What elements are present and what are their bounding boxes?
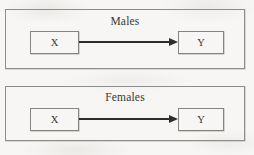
panel-females-title: Females [6, 92, 244, 104]
path-diagram-figure: Males X Y Females X Y [0, 0, 254, 155]
arrow-head-icon [169, 38, 178, 46]
panel-females-node-x: X [30, 108, 79, 131]
panel-males-arrow-x-to-y [79, 41, 178, 43]
panel-females-arrow-x-to-y [79, 118, 178, 120]
panel-females-node-y: Y [178, 108, 224, 131]
arrow-shaft-icon [79, 41, 170, 43]
panel-males-title: Males [6, 16, 244, 28]
panel-females-node-x-label: X [51, 114, 59, 125]
panel-males-node-y: Y [178, 31, 224, 54]
panel-females-node-y-label: Y [197, 114, 205, 125]
panel-males-node-x: X [30, 31, 79, 54]
panel-females: Females X Y [5, 86, 245, 141]
panel-males: Males X Y [5, 9, 245, 69]
panel-males-node-y-label: Y [197, 37, 205, 48]
panel-males-node-x-label: X [51, 37, 59, 48]
arrow-shaft-icon [79, 118, 170, 120]
arrow-head-icon [169, 115, 178, 123]
